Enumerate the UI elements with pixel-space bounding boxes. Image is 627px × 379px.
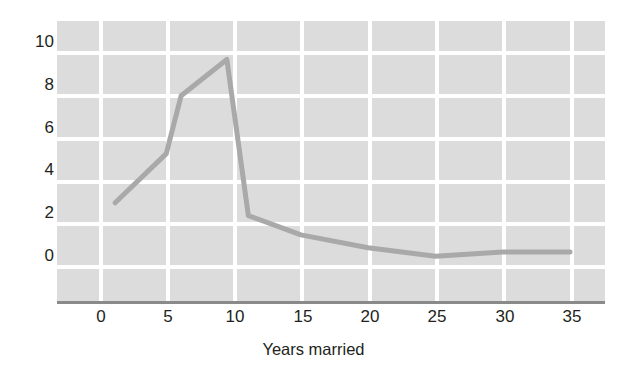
series-divorce-percent-polyline [115,59,570,256]
x-tick-label-20: 20 [340,308,400,327]
y-tick-label-2: 2 [14,204,54,221]
x-axis-title: Years married [0,340,627,359]
x-axis-title-label: Years married [262,340,364,358]
x-tick-label-35: 35 [542,308,602,327]
x-tick-label-25: 25 [407,308,467,327]
y-tick-label-10: 10 [14,33,54,50]
x-tick-label-30: 30 [475,308,535,327]
x-tick-label-15: 15 [273,308,333,327]
x-axis-line [57,301,605,304]
x-tick-label-10: 10 [205,308,265,327]
x-tick-label-0: 0 [71,308,131,327]
y-tick-label-4: 4 [14,161,54,178]
y-tick-label-0: 0 [14,247,54,264]
x-axis-tick-labels: 0 5 10 15 20 25 30 35 [0,308,627,334]
y-tick-label-8: 8 [14,76,54,93]
data-series-line [57,21,605,302]
divorce-rate-line-chart: Percent of divorces 10 8 6 4 2 0 0 [0,0,627,379]
plot-area [57,21,605,302]
x-tick-label-5: 5 [138,308,198,327]
y-tick-label-6: 6 [14,119,54,136]
